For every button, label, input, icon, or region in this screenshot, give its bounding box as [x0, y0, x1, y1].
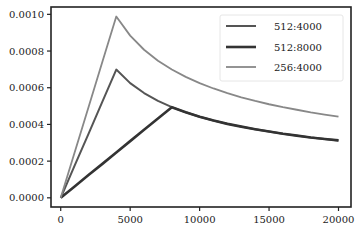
x-tick-label: 0 [58, 214, 64, 225]
y-tick-label: 0.0010 [9, 9, 44, 20]
y-tick-label: 0.0008 [9, 46, 44, 57]
x-tick-label: 15000 [253, 214, 285, 225]
y-tick-label: 0.0002 [9, 156, 44, 167]
x-axis: 05000100001500020000 [58, 207, 355, 225]
y-tick-label: 0.0006 [9, 82, 44, 93]
x-tick-label: 10000 [184, 214, 216, 225]
legend-label-512-8000: 512:8000 [274, 42, 322, 53]
legend: 512:4000 512:8000 256:4000 [220, 15, 343, 81]
legend-label-256-4000: 256:4000 [274, 62, 322, 73]
y-tick-label: 0.0000 [9, 192, 44, 203]
y-axis: 0.00000.00020.00040.00060.00080.0010 [9, 9, 51, 203]
x-tick-label: 20000 [323, 214, 355, 225]
x-tick-label: 5000 [117, 214, 142, 225]
y-tick-label: 0.0004 [9, 119, 44, 130]
learning-rate-chart: 05000100001500020000 0.00000.00020.00040… [0, 0, 356, 231]
legend-label-512-4000: 512:4000 [274, 21, 322, 32]
